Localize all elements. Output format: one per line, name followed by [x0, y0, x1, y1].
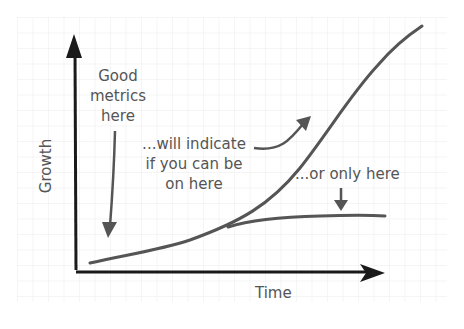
will-indicate-label: ...will indicate if you can be on here	[134, 134, 254, 194]
y-axis-label: Growth	[36, 136, 56, 196]
good-line-2: metrics	[88, 86, 148, 106]
good-line-3: here	[88, 106, 148, 126]
good-line-1: Good	[88, 66, 148, 86]
will-line-1: ...will indicate	[134, 134, 254, 154]
will-line-3: on here	[134, 174, 254, 194]
will-line-2: if you can be	[134, 154, 254, 174]
y-axis	[75, 52, 76, 270]
only-here-label: ...or only here	[295, 164, 400, 184]
x-axis-label: Time	[255, 283, 292, 303]
good-metrics-label: Good metrics here	[88, 66, 148, 126]
